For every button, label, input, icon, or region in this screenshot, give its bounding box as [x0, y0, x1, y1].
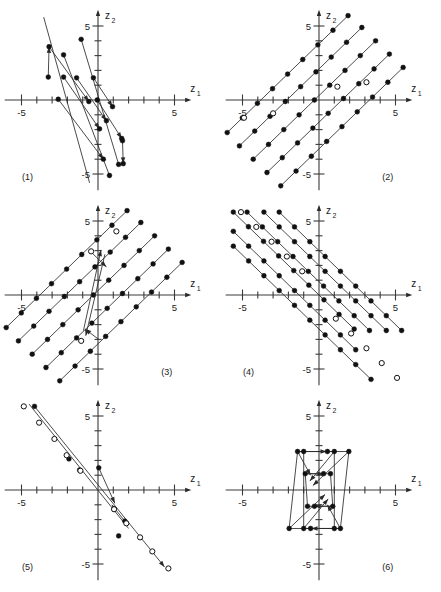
- data-point-filled: [323, 333, 328, 338]
- data-point-filled: [47, 309, 52, 314]
- data-point-filled: [346, 449, 351, 454]
- y-tick-label: -5: [82, 364, 90, 375]
- data-point-filled: [331, 28, 336, 33]
- data-point-filled: [61, 75, 66, 80]
- data-point-filled: [291, 268, 296, 273]
- data-point-filled: [77, 279, 82, 284]
- data-point-filled: [329, 55, 334, 60]
- x-axis-label-subscript: 1: [418, 480, 422, 487]
- x-tick-label: 5: [172, 107, 177, 118]
- data-point-filled: [341, 96, 346, 101]
- data-point-filled: [110, 223, 115, 228]
- data-point-filled: [277, 210, 282, 215]
- arrowhead: [406, 98, 412, 102]
- data-point-filled: [358, 53, 363, 58]
- arrowhead: [406, 488, 412, 492]
- data-point-filled: [255, 101, 260, 106]
- data-point-filled: [336, 299, 341, 304]
- data-point-open: [166, 566, 171, 571]
- data-point-filled: [303, 471, 308, 476]
- data-point-filled: [266, 142, 271, 147]
- data-point-filled: [324, 139, 329, 144]
- arrowhead: [317, 400, 321, 406]
- data-point-filled: [74, 336, 79, 341]
- data-point-filled: [308, 526, 313, 531]
- data-point-filled: [340, 124, 345, 129]
- axes: -55-55z1z2: [5, 205, 201, 386]
- data-point-filled: [312, 504, 317, 509]
- data-point-filled: [125, 208, 130, 213]
- data-point-filled: [49, 281, 54, 286]
- data-point-open: [36, 420, 41, 425]
- data-point-filled: [295, 449, 300, 454]
- data-point-filled: [384, 328, 389, 333]
- data-point-filled: [105, 306, 110, 311]
- axes: -55-55z1z2: [226, 205, 422, 386]
- data-point-filled: [294, 169, 299, 174]
- data-point-filled: [4, 325, 9, 330]
- data-point-filled: [384, 313, 389, 318]
- chart-panel-3: -55-55z1z2(3): [0, 195, 220, 392]
- data-line: [233, 246, 371, 379]
- data-point-filled: [64, 267, 69, 272]
- data-point-filled: [370, 95, 375, 100]
- axes: -55-55z1z2: [226, 10, 422, 191]
- x-tick-label: -5: [238, 497, 246, 508]
- data-point-filled: [103, 334, 108, 339]
- data-point-filled: [107, 173, 112, 178]
- data-point-filled: [44, 365, 49, 370]
- data-point-open: [254, 224, 259, 229]
- data-point-filled: [151, 262, 156, 267]
- x-axis-label: z: [411, 83, 416, 94]
- data-point-filled: [325, 449, 330, 454]
- x-axis-label: z: [190, 473, 195, 484]
- data-point-filled: [88, 349, 93, 354]
- lattice-lines: [4, 208, 185, 383]
- data-point-filled: [332, 449, 337, 454]
- data-point-filled: [89, 321, 94, 326]
- data-point-filled: [321, 284, 326, 289]
- data-point-filled: [399, 328, 404, 333]
- data-point-filled: [328, 471, 333, 476]
- data-point-filled: [277, 225, 282, 230]
- data-point-filled: [346, 13, 351, 18]
- data-point-open: [300, 269, 305, 274]
- data-point-filled: [57, 378, 62, 383]
- data-point-filled: [309, 154, 314, 159]
- data-point-filled: [310, 126, 315, 131]
- data-point-filled: [79, 37, 84, 42]
- data-point-filled: [246, 244, 251, 249]
- data-point-open: [52, 436, 57, 441]
- data-point-filled: [353, 284, 358, 289]
- data-point-filled: [47, 44, 52, 49]
- y-tick-label: 5: [306, 411, 311, 422]
- y-axis-label-subscript: 2: [333, 17, 337, 24]
- arrowhead: [96, 10, 100, 16]
- data-point-filled: [369, 313, 374, 318]
- x-axis-label-subscript: 1: [418, 90, 422, 97]
- data-point-filled: [314, 69, 319, 74]
- data-point-open: [111, 507, 116, 512]
- data-point-filled: [307, 303, 312, 308]
- y-axis-label: z: [326, 205, 331, 216]
- arrowhead: [185, 488, 191, 492]
- y-tick-label: -5: [303, 559, 311, 570]
- data-point-filled: [292, 225, 297, 230]
- data-point-filled: [315, 42, 320, 47]
- data-point-filled: [95, 98, 100, 103]
- data-line: [77, 78, 107, 121]
- data-point-filled: [97, 126, 102, 131]
- data-point-filled: [265, 170, 270, 175]
- y-axis-label: z: [326, 10, 331, 21]
- data-point-filled: [56, 97, 61, 102]
- data-point-filled: [260, 225, 265, 230]
- chart-panel-5: -55-55z1z2(5): [0, 390, 220, 587]
- data-point-filled: [31, 324, 36, 329]
- data-point-filled: [367, 328, 372, 333]
- y-axis-label: z: [326, 400, 331, 411]
- data-point-filled: [353, 299, 358, 304]
- data-point-filled: [353, 347, 358, 352]
- data-point-filled: [292, 239, 297, 244]
- chart-panel-2: -55-55z1z2(2): [221, 0, 441, 197]
- data-point-filled: [134, 304, 139, 309]
